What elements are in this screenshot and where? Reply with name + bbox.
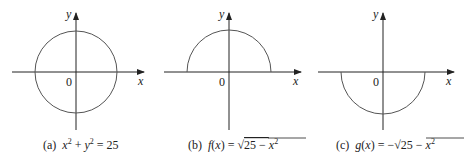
x-axis-label: x xyxy=(445,74,452,88)
figure-diagram: y x 0 (a) x2 + y2 = 25 y x 0 (b) f(x) = … xyxy=(0,0,469,159)
panel-a: y x 0 (a) x2 + y2 = 25 xyxy=(12,7,144,152)
caption-a: (a) x2 + y2 = 25 xyxy=(43,137,119,152)
origin-label: 0 xyxy=(66,75,72,89)
panel-b: y x 0 (b) f(x) = √25 − x2 xyxy=(164,7,306,152)
x-axis-label: x xyxy=(292,74,299,88)
y-axis-label: y xyxy=(372,7,379,21)
y-axis-label: y xyxy=(65,7,72,21)
origin-label: 0 xyxy=(219,75,225,89)
panel-c: y x 0 (c) g(x) = −√25 − x2 xyxy=(318,7,464,152)
caption-b: (b) f(x) = √25 − x2 xyxy=(188,137,278,152)
origin-label: 0 xyxy=(373,75,379,89)
x-axis-label: x xyxy=(137,74,144,88)
caption-c: (c) g(x) = −√25 − x2 xyxy=(336,137,435,152)
y-axis-label: y xyxy=(218,7,225,21)
